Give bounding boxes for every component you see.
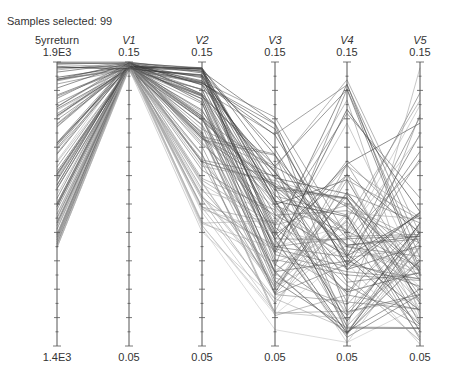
parallel-coordinates-plot[interactable] xyxy=(0,0,452,382)
sample-polylines xyxy=(57,62,420,344)
sample-line xyxy=(57,70,420,281)
axis-v3[interactable] xyxy=(271,62,279,346)
axis-v1[interactable] xyxy=(125,62,133,346)
